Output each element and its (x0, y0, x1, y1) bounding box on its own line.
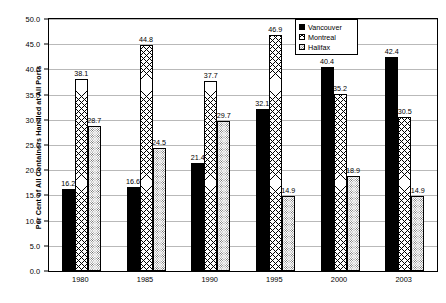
bar-vancouver-2003 (385, 57, 398, 271)
bar-halifax-1980 (88, 126, 101, 271)
x-axis-tick-labels: 198019851990199520002003 (48, 275, 438, 291)
y-tick-label: 5.0 (30, 241, 40, 250)
bar-halifax-2000 (347, 176, 360, 271)
legend-label-halifax: Halifax (308, 43, 330, 52)
bar-halifax-1985 (153, 148, 166, 271)
bar-value-label: 35.2 (328, 84, 353, 93)
bar-value-label: 29.7 (211, 111, 236, 120)
bar-chart-figure: Per Cent of All Containers Handled at Al… (0, 0, 446, 303)
x-tick-label: 2000 (331, 275, 347, 284)
bar-value-label: 30.5 (392, 107, 417, 116)
legend-swatch-halifax (299, 44, 305, 50)
bar-montreal-1985 (140, 45, 153, 271)
bar-montreal-1980 (75, 79, 88, 271)
bar-value-label: 42.4 (379, 47, 404, 56)
bar-value-label: 46.9 (263, 25, 288, 34)
bar-halifax-2003 (411, 196, 424, 271)
legend-item-vancouver: Vancouver (299, 22, 354, 32)
x-tick-label: 2003 (395, 275, 411, 284)
bar-vancouver-1990 (191, 163, 204, 271)
chart-legend: Vancouver Montreal Halifax (295, 19, 358, 55)
bar-value-label: 18.9 (341, 166, 366, 175)
x-tick-label: 1980 (72, 275, 88, 284)
bar-vancouver-1980 (62, 189, 75, 271)
plot-area: 16.238.128.716.644.824.521.437.729.732.1… (48, 18, 438, 272)
bar-value-label: 40.4 (315, 57, 340, 66)
legend-item-halifax: Halifax (299, 42, 354, 52)
legend-label-montreal: Montreal (308, 33, 336, 42)
legend-item-montreal: Montreal (299, 32, 354, 42)
y-tick-label: 25.0 (26, 141, 40, 150)
y-tick-label: 40.0 (26, 65, 40, 74)
bar-vancouver-2000 (321, 67, 334, 271)
y-tick-label: 0.0 (30, 267, 40, 276)
bar-value-label: 38.1 (69, 69, 94, 78)
x-tick-label: 1995 (266, 275, 282, 284)
bar-montreal-2000 (334, 94, 347, 271)
x-tick-label: 1990 (201, 275, 217, 284)
y-tick-label: 15.0 (26, 191, 40, 200)
y-tick-label: 50.0 (26, 15, 40, 24)
legend-label-vancouver: Vancouver (308, 23, 342, 32)
y-tick-label: 30.0 (26, 115, 40, 124)
bar-montreal-1990 (204, 81, 217, 271)
y-tick-label: 10.0 (26, 216, 40, 225)
bar-vancouver-1995 (256, 109, 269, 271)
legend-swatch-montreal (299, 34, 305, 40)
x-tick-label: 1985 (137, 275, 153, 284)
bar-series-layer: 16.238.128.716.644.824.521.437.729.732.1… (49, 19, 437, 271)
bar-vancouver-1985 (127, 187, 140, 271)
bar-value-label: 44.8 (134, 35, 159, 44)
y-tick-label: 20.0 (26, 166, 40, 175)
legend-swatch-vancouver (299, 24, 305, 30)
bar-value-label: 37.7 (198, 71, 223, 80)
y-tick-label: 35.0 (26, 90, 40, 99)
bar-value-label: 14.9 (405, 186, 430, 195)
y-axis-tick-labels: 0.05.010.015.020.025.030.035.040.045.050… (0, 18, 44, 272)
y-tick-label: 45.0 (26, 40, 40, 49)
bar-value-label: 14.9 (276, 186, 301, 195)
bar-value-label: 28.7 (82, 116, 107, 125)
bar-halifax-1990 (217, 121, 230, 271)
bar-halifax-1995 (282, 196, 295, 271)
bar-value-label: 24.5 (147, 138, 172, 147)
bar-montreal-1995 (269, 35, 282, 271)
